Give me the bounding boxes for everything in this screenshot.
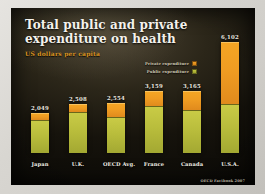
category-axis-labels: JapanU.K.OECD Avg.FranceCanadaU.S.A. — [23, 161, 247, 167]
stacked-bar[interactable] — [145, 91, 163, 153]
bar-value-label: 2,508 — [69, 96, 87, 102]
category-label-oecd-avg: OECD Avg. — [103, 161, 129, 167]
bar-segment-private[interactable] — [69, 104, 87, 112]
category-label-u-s-a: U.S.A. — [217, 161, 243, 167]
bar-value-label: 6,102 — [221, 34, 239, 40]
bar-segment-public[interactable] — [69, 112, 87, 153]
bar-segment-public[interactable] — [221, 104, 239, 154]
bar-segment-public[interactable] — [31, 120, 49, 153]
stacked-bar[interactable] — [221, 42, 239, 153]
bar-value-label: 3,159 — [145, 83, 163, 89]
category-label-canada: Canada — [179, 161, 205, 167]
category-label-u-k: U.K. — [65, 161, 91, 167]
private-expenditure-swatch-icon — [192, 61, 197, 66]
bar-segment-private[interactable] — [221, 42, 239, 103]
bar-segment-private[interactable] — [183, 91, 201, 110]
chart-legend: Private expenditure Public expenditure — [145, 61, 197, 74]
bar-group[interactable]: 6,102 — [217, 34, 243, 153]
legend-item-private: Private expenditure — [145, 61, 197, 66]
legend-label-private: Private expenditure — [145, 61, 189, 66]
bar-segment-public[interactable] — [145, 106, 163, 153]
legend-item-public: Public expenditure — [147, 69, 197, 74]
source-note: OECD Factbook 2007 — [201, 179, 245, 183]
stacked-bar[interactable] — [69, 104, 87, 153]
chart-subtitle: US dollars per capita — [25, 50, 187, 57]
category-label-france: France — [141, 161, 167, 167]
title-block: Total public and private expenditure on … — [25, 19, 187, 57]
bar-segment-public[interactable] — [183, 110, 201, 153]
page-title-line-2: expenditure on health — [25, 33, 187, 47]
bar-segment-private[interactable] — [31, 113, 49, 120]
public-expenditure-swatch-icon — [192, 69, 197, 74]
bar-segment-private[interactable] — [107, 103, 125, 117]
stacked-bar[interactable] — [107, 103, 125, 153]
stacked-bar[interactable] — [31, 113, 49, 153]
presentation-slide: Total public and private expenditure on … — [11, 8, 255, 185]
stacked-bar[interactable] — [183, 91, 201, 153]
slide-photo-frame: Total public and private expenditure on … — [0, 0, 265, 194]
legend-label-public: Public expenditure — [147, 69, 189, 74]
category-label-japan: Japan — [27, 161, 53, 167]
page-title-line-1: Total public and private — [25, 19, 187, 33]
bar-value-label: 2,554 — [107, 95, 125, 101]
bar-segment-private[interactable] — [145, 91, 163, 106]
bar-value-label: 2,049 — [31, 105, 49, 111]
bar-segment-public[interactable] — [107, 117, 125, 153]
bar-value-label: 3,165 — [183, 83, 201, 89]
